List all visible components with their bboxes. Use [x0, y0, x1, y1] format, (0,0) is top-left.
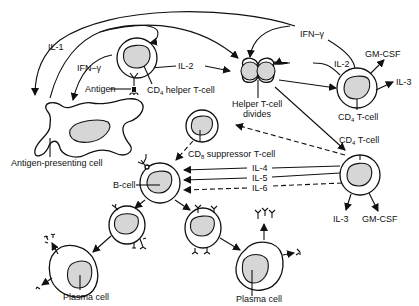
cd4-helper-label: CD4 helper T-cell: [147, 85, 215, 96]
helper-t-cell-divides: [241, 58, 275, 82]
ifn-gamma-left-label: IFN–γ: [77, 63, 102, 73]
cd8-label: CD8 suppressor T-cell: [188, 149, 275, 160]
ifn-gamma-top-label: IFN–γ: [300, 29, 325, 39]
il3-bottom-label: IL-3: [333, 214, 349, 224]
plasma-cell-left-label: Plasma cell: [63, 292, 109, 302]
bcell-label: B-cell: [113, 180, 136, 190]
ifn-gamma-arc-to-apc: [35, 12, 295, 95]
plasma-cell-right: [236, 242, 283, 290]
il2-right-label: IL-2: [334, 59, 350, 69]
arrow-to-cd4-right: [279, 80, 336, 88]
cd4-helper-t-cell: [117, 38, 157, 78]
antigen-label: Antigen: [85, 84, 116, 94]
immune-response-diagram: IL-1 IFN–γ IL-2 IFN–γ IL-2 Antigen CD4 h…: [0, 0, 419, 306]
arrow-il3-top: [376, 82, 393, 90]
il6-label: IL-6: [252, 183, 268, 193]
plasma-cell-right-label: Plasma cell: [236, 294, 282, 304]
plasma-cell-left: [49, 245, 97, 297]
il2-left-label: IL-2: [178, 61, 194, 71]
ifn-gamma-arc-to-divides: [250, 26, 290, 57]
arrow-to-cd4-lower: [275, 87, 345, 150]
arrow-gmcsf-bottom: [369, 193, 378, 211]
cd8-suppressor-t-cell: [186, 110, 218, 142]
cd4-tcell-mid-label: CD4 T-cell: [339, 135, 379, 146]
dividing-b-cell-right: [185, 205, 221, 254]
gmcsf-bottom-label: GM-CSF: [362, 214, 398, 224]
il3-top-label: IL-3: [396, 77, 412, 87]
il1-label: IL-1: [48, 42, 64, 52]
gmcsf-top-label: GM-CSF: [365, 49, 401, 59]
il4-label: IL-4: [252, 163, 268, 173]
dividing-b-cell-left: [109, 204, 146, 249]
antibody-receptor-icon: [138, 154, 149, 169]
cd4-tcell-top-label: CD4 T-cell: [338, 112, 378, 123]
cd4-t-cell-lower-right: [340, 155, 380, 195]
arrow-il3-bottom: [346, 194, 351, 210]
arrow-gmcsf-top: [370, 60, 384, 74]
apc-label: Antigen-presenting cell: [11, 158, 103, 168]
antigen-presenting-cell: [35, 99, 143, 157]
helper-divides-label-1: Helper T-cell: [232, 99, 282, 109]
helper-divides-label-2: divides: [243, 109, 272, 119]
il5-label: IL-5: [252, 173, 268, 183]
